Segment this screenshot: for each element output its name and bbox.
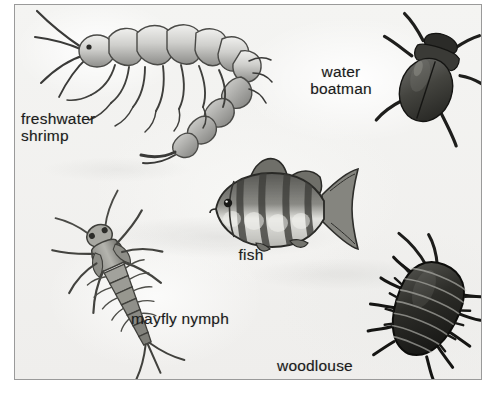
label-fish-text: fish: [239, 246, 264, 263]
label-mayfly-nymph: mayfly nymph: [131, 310, 281, 327]
illustration-plate: freshwater shrimp: [14, 4, 482, 380]
illustration-figure: freshwater shrimp: [0, 0, 492, 401]
label-freshwater-shrimp: freshwater shrimp: [21, 110, 145, 144]
label-water-boatman-text: water boatman: [310, 63, 372, 97]
woodlouse-illustration: [353, 251, 482, 371]
label-mayfly-nymph-text: mayfly nymph: [131, 310, 229, 327]
mayfly-nymph-illustration: [37, 201, 209, 379]
fish-illustration: [198, 157, 364, 253]
label-freshwater-shrimp-line1: freshwater shrimp: [21, 110, 95, 144]
label-woodlouse: woodlouse: [277, 357, 405, 374]
label-fish: fish: [223, 246, 279, 263]
label-woodlouse-text: woodlouse: [277, 357, 353, 374]
label-water-boatman: water boatman: [293, 63, 389, 97]
